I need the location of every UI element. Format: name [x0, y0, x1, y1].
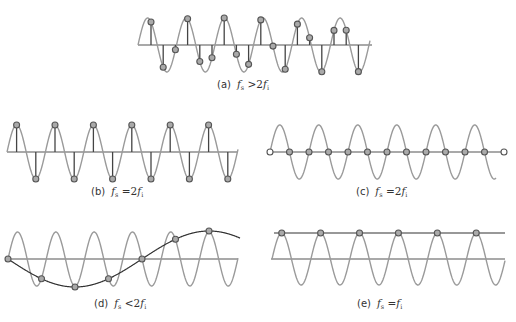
sample-point — [357, 230, 363, 236]
caption-b-label: (b) — [91, 186, 105, 197]
caption-b-fi-sub: i — [141, 191, 143, 199]
sample-point — [148, 176, 154, 182]
sample-point — [197, 59, 203, 65]
sample-point — [443, 149, 449, 155]
sample-point — [185, 16, 191, 22]
sample-point — [72, 284, 78, 290]
caption-a-fi-sub: i — [267, 84, 269, 92]
caption-d-op: < — [125, 297, 134, 309]
caption-b: (b)fs =2fi — [91, 185, 143, 199]
caption-d: (d)fs <2fi — [94, 297, 146, 311]
sample-point — [5, 256, 11, 262]
caption-a-label: (a) — [217, 79, 231, 90]
caption-c-fs-sub: s — [379, 191, 382, 199]
sample-point — [307, 35, 313, 41]
caption-a-op: > — [248, 78, 257, 90]
caption-e: (e)fs =fi — [357, 297, 402, 311]
sample-point — [206, 228, 212, 234]
caption-c-label: (c) — [356, 186, 369, 197]
sample-point — [287, 149, 293, 155]
panel-c-plot — [267, 125, 507, 179]
caption-c-op: = — [386, 185, 395, 197]
sample-point — [221, 15, 227, 21]
panel-a-plot — [138, 15, 372, 75]
sample-point — [319, 69, 325, 75]
sample-point — [501, 149, 507, 155]
sample-point — [173, 236, 179, 242]
sample-point — [326, 149, 332, 155]
panel-d-plot — [5, 228, 240, 290]
sample-point — [318, 230, 324, 236]
caption-d-fi-sub: i — [144, 303, 146, 311]
sample-point — [39, 276, 45, 282]
sample-point — [270, 43, 276, 49]
panel-b-plot — [7, 122, 238, 182]
caption-c: (c)fs =2fi — [356, 185, 407, 199]
caption-e-fs-sub: s — [381, 303, 384, 311]
sample-point — [404, 149, 410, 155]
caption-c-fi-sub: i — [405, 191, 407, 199]
sample-point — [186, 176, 192, 182]
sample-point — [139, 256, 145, 262]
sample-point — [423, 149, 429, 155]
sample-point — [246, 61, 252, 67]
caption-d-label: (d) — [94, 298, 108, 309]
sample-point — [106, 276, 112, 282]
sample-point — [167, 122, 173, 128]
sample-point — [129, 122, 135, 128]
sample-point — [345, 149, 351, 155]
sample-point — [267, 149, 273, 155]
caption-a: (a)fs >2fi — [217, 78, 269, 92]
sample-point — [482, 149, 488, 155]
sample-point — [462, 149, 468, 155]
sample-point — [90, 122, 96, 128]
sample-point — [355, 69, 361, 75]
sample-point — [209, 55, 215, 61]
panel-e-plot — [271, 230, 505, 285]
sample-point — [148, 19, 154, 25]
sample-point — [233, 51, 239, 57]
sample-point — [71, 176, 77, 182]
caption-b-fs-sub: s — [115, 191, 118, 199]
sample-point — [160, 64, 166, 70]
sample-point — [172, 47, 178, 53]
caption-b-op: = — [122, 185, 131, 197]
sampling-diagram — [0, 0, 516, 322]
sample-point — [225, 176, 231, 182]
sample-point — [384, 149, 390, 155]
sample-point — [279, 230, 285, 236]
sample-point — [258, 17, 264, 23]
sample-point — [395, 230, 401, 236]
caption-a-coef: 2 — [256, 78, 263, 90]
sample-point — [343, 27, 349, 33]
sample-point — [473, 230, 479, 236]
sample-point — [206, 122, 212, 128]
caption-a-fs-sub: s — [241, 84, 244, 92]
caption-e-label: (e) — [357, 298, 371, 309]
sample-point — [294, 21, 300, 27]
sample-point — [434, 230, 440, 236]
sample-point — [14, 122, 20, 128]
sample-point — [110, 176, 116, 182]
sample-point — [365, 149, 371, 155]
caption-d-fs-sub: s — [118, 303, 121, 311]
sample-point — [331, 27, 337, 33]
sample-point — [282, 66, 288, 72]
sample-point — [52, 122, 58, 128]
caption-e-fi-sub: i — [400, 303, 402, 311]
sample-point — [306, 149, 312, 155]
sample-point — [33, 176, 39, 182]
